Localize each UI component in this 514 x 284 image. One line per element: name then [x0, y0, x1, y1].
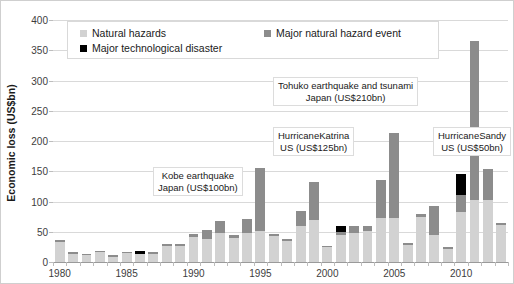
bar-segment-2010-major-natural-hazard-event — [456, 195, 466, 212]
legend-swatch-major-technological-disaster — [80, 45, 87, 52]
bar-1991 — [202, 230, 212, 262]
x-tickmark-1997 — [281, 262, 282, 266]
bar-2005 — [389, 133, 399, 262]
bar-2013 — [496, 223, 506, 262]
x-tick-label-1995: 1995 — [249, 268, 271, 279]
bar-segment-1981-natural-hazards — [68, 254, 78, 262]
y-tick-label-0: 0 — [42, 257, 48, 268]
bar-1997 — [282, 239, 292, 262]
legend-label-major-natural-hazard-event: Major natural hazard event — [276, 27, 401, 39]
bar-segment-1994-major-natural-hazard-event — [242, 219, 252, 233]
y-tickmark-100 — [49, 202, 53, 203]
bar-segment-1980-natural-hazards — [55, 242, 65, 262]
x-tickmark-end — [508, 262, 509, 266]
gridline-100 — [53, 202, 508, 203]
bar-2002 — [349, 226, 359, 262]
bar-segment-2012-natural-hazards — [483, 200, 493, 262]
x-tickmark-1982 — [80, 262, 81, 266]
bar-2001 — [336, 226, 346, 262]
bar-1996 — [269, 234, 279, 262]
bar-2000 — [322, 246, 332, 262]
x-tickmark-1986 — [133, 262, 134, 266]
bar-1982 — [82, 254, 92, 262]
bar-1992 — [215, 221, 225, 262]
x-tickmark-2009 — [441, 262, 442, 266]
x-tickmark-1983 — [93, 262, 94, 266]
x-tickmark-1985 — [120, 262, 121, 266]
bar-segment-1989-natural-hazards — [175, 246, 185, 262]
y-tick-label-250: 250 — [31, 105, 48, 116]
y-axis-title-label: Economic loss (US$bn) — [5, 84, 17, 201]
bar-segment-1986-natural-hazards — [135, 254, 145, 262]
annotation-tohoku-earthquake: Tohuko earthquake and tsunami Japan (US$… — [273, 77, 418, 106]
bar-segment-1991-major-natural-hazard-event — [202, 230, 212, 239]
bar-1998 — [296, 211, 306, 262]
annotation-sandy-line-2: US (US$50bn) — [438, 142, 506, 154]
y-tickmark-200 — [49, 141, 53, 142]
x-tickmark-2004 — [374, 262, 375, 266]
bar-segment-1990-natural-hazards — [189, 237, 199, 262]
x-tickmark-1994 — [240, 262, 241, 266]
bar-1988 — [162, 244, 172, 262]
x-tickmark-2012 — [481, 262, 482, 266]
bar-segment-1993-natural-hazards — [229, 238, 239, 262]
bar-2004 — [376, 180, 386, 262]
x-tickmark-1990 — [187, 262, 188, 266]
bar-segment-1987-natural-hazards — [148, 254, 158, 262]
bar-1985 — [122, 252, 132, 262]
bar-segment-2010-natural-hazards — [456, 212, 466, 262]
annotation-katrina-line-1: HurricaneKatrina — [278, 130, 349, 142]
x-tickmark-2006 — [401, 262, 402, 266]
bar-segment-1992-major-natural-hazard-event — [215, 221, 225, 233]
x-tickmark-2002 — [347, 262, 348, 266]
bar-segment-2006-natural-hazards — [403, 245, 413, 262]
bar-segment-2002-major-natural-hazard-event — [349, 226, 359, 233]
bar-2003 — [363, 226, 373, 262]
bar-segment-1992-natural-hazards — [215, 233, 225, 262]
bar-segment-1983-natural-hazards — [95, 252, 105, 262]
bar-segment-1997-natural-hazards — [282, 241, 292, 262]
y-tickmark-50 — [49, 232, 53, 233]
bar-2006 — [403, 243, 413, 262]
bar-segment-1998-natural-hazards — [296, 226, 306, 262]
x-tickmark-1980 — [53, 262, 54, 266]
bar-1987 — [148, 252, 158, 262]
bar-segment-2001-natural-hazards — [336, 235, 346, 262]
y-tickmark-250 — [49, 111, 53, 112]
legend-label-major-technological-disaster: Major technological disaster — [92, 42, 222, 54]
legend-item-major-natural-hazard-event: Major natural hazard event — [264, 27, 401, 39]
annotation-hurricane-sandy: HurricaneSandy US (US$50bn) — [433, 127, 511, 156]
x-tickmark-2000 — [321, 262, 322, 266]
annotation-sandy-line-1: HurricaneSandy — [438, 130, 506, 142]
bar-segment-1995-natural-hazards — [255, 231, 265, 262]
x-tickmark-2001 — [334, 262, 335, 266]
bar-segment-1984-natural-hazards — [108, 257, 118, 262]
bar-segment-2011-major-natural-hazard-event — [470, 41, 480, 200]
bar-1990 — [189, 234, 199, 262]
bar-segment-1998-major-natural-hazard-event — [296, 211, 306, 226]
gridline-150 — [53, 171, 508, 172]
y-tick-label-350: 350 — [31, 45, 48, 56]
bar-2012 — [483, 169, 493, 262]
y-tick-label-200: 200 — [31, 136, 48, 147]
x-tickmark-1987 — [147, 262, 148, 266]
annotation-kobe-earthquake: Kobe earthquake Japan (US$100bn) — [153, 167, 243, 196]
gridline-250 — [53, 111, 508, 112]
bar-1984 — [108, 255, 118, 262]
y-tick-label-50: 50 — [37, 226, 48, 237]
legend-swatch-major-natural-hazard-event — [264, 30, 271, 37]
x-tickmark-2011 — [468, 262, 469, 266]
bar-segment-1985-natural-hazards — [122, 253, 132, 262]
legend-label-natural-hazards: Natural hazards — [92, 27, 166, 39]
x-tickmark-2007 — [414, 262, 415, 266]
y-tickmark-150 — [49, 171, 53, 172]
bar-2010 — [456, 174, 466, 262]
bar-segment-1994-natural-hazards — [242, 233, 252, 262]
gridline-50 — [53, 232, 508, 233]
bar-1999 — [309, 182, 319, 262]
bar-segment-1991-natural-hazards — [202, 239, 212, 262]
y-tick-label-300: 300 — [31, 75, 48, 86]
annotation-katrina-line-2: US (US$125bn) — [278, 142, 349, 154]
bar-segment-2012-major-natural-hazard-event — [483, 169, 493, 200]
bar-2008 — [429, 206, 439, 262]
